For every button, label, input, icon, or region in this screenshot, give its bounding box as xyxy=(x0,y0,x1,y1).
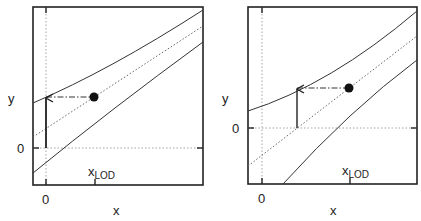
right-xlod-label: xLOD xyxy=(342,164,369,180)
left-xlod-label: xLOD xyxy=(88,165,115,181)
left-upper-band xyxy=(33,10,203,103)
left-regression-line xyxy=(33,26,203,137)
left-plot-frame xyxy=(33,7,203,185)
left-x-axis-label: x xyxy=(113,204,120,217)
right-x-axis-label: x xyxy=(330,204,337,217)
left-y-zero-label: 0 xyxy=(17,142,24,155)
right-x-zero-label: 0 xyxy=(258,192,265,205)
left-y-axis-label: y xyxy=(8,92,15,105)
left-panel xyxy=(33,7,203,185)
right-panel xyxy=(248,7,417,184)
left-x-zero-label: 0 xyxy=(42,193,49,206)
right-upper-band xyxy=(248,11,417,111)
left-lower-band xyxy=(33,42,203,173)
right-regression-line xyxy=(248,36,417,166)
right-y-zero-label: 0 xyxy=(232,122,239,135)
right-lod-point xyxy=(345,84,354,93)
right-y-axis-label: y xyxy=(222,92,229,105)
left-lod-point xyxy=(90,93,99,102)
diagram-canvas xyxy=(0,0,421,221)
right-plot-frame xyxy=(248,7,417,184)
